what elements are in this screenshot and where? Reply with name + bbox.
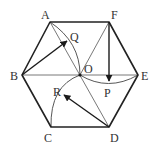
label-E: E <box>141 69 148 83</box>
label-B: B <box>10 69 18 83</box>
label-R: R <box>53 85 61 99</box>
center-point-O <box>78 73 81 76</box>
vector-BQ <box>22 41 67 75</box>
label-P: P <box>104 86 111 100</box>
label-F: F <box>111 8 118 22</box>
label-D: D <box>110 131 119 145</box>
vector-DR <box>64 95 109 127</box>
label-C: C <box>44 131 52 145</box>
diagram-canvas: A F E D C B O Q P R <box>0 0 156 149</box>
arc-CO-through-R <box>51 75 80 127</box>
label-Q: Q <box>70 30 79 44</box>
label-A: A <box>41 8 50 22</box>
label-O: O <box>84 62 93 76</box>
hexagon-vector-diagram: A F E D C B O Q P R <box>0 0 156 149</box>
